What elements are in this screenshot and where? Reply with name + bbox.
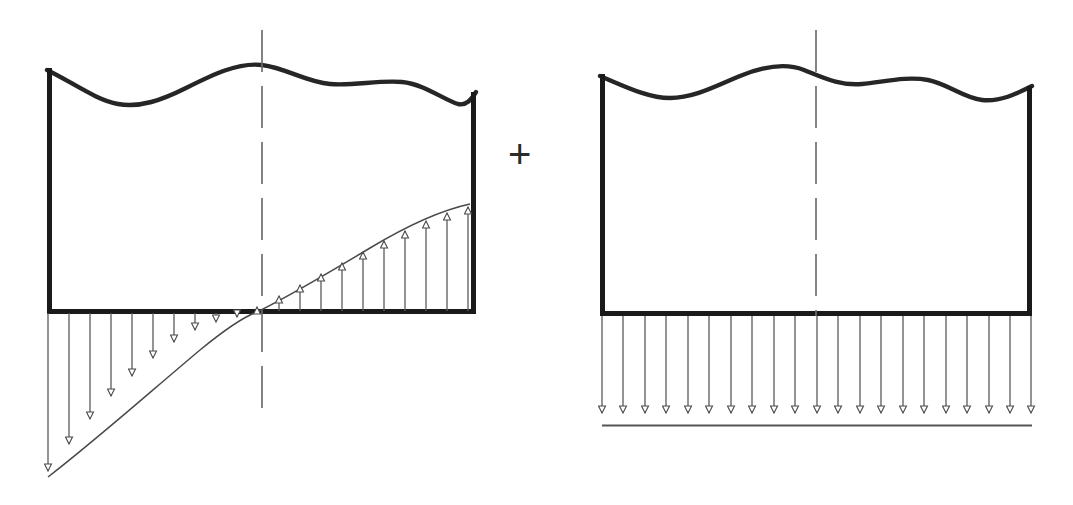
plus-operator: +: [508, 134, 531, 174]
right-diagram: [600, 30, 1032, 426]
figure-canvas: +: [0, 0, 1073, 505]
left-down-arrow-group: [48, 313, 237, 471]
left-diagram: [47, 30, 476, 477]
right-uniform-arrow-group: [602, 316, 1031, 413]
superposition-diagram: [0, 0, 1073, 505]
